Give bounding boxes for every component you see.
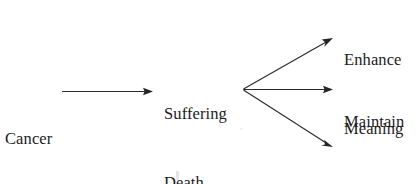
node-mediators: Suffering Death Guilt [164,56,227,184]
scan-artifact-speck [240,128,243,130]
node-cancer-line-1: Cancer [5,127,52,150]
node-loss-of-meaning: Loss of Meaning [344,133,403,184]
node-mediators-line-1: Suffering [164,102,227,125]
scan-artifact-mark [176,171,179,180]
arrow-mediators-to-loss [244,90,334,147]
node-cancer: Cancer [5,81,52,184]
arrow-mediators-to-enhance [244,38,334,89]
arrow-mediators-to-maintain [244,86,334,93]
flowchart-diagram: Cancer Suffering Death Guilt Enhance Mea… [0,0,417,184]
node-mediators-line-2: Death [164,171,227,184]
node-maintain-line-1: Maintain [344,110,404,133]
arrow-cancer-to-mediators [62,88,153,95]
node-loss-line-1: Loss of [344,179,403,184]
